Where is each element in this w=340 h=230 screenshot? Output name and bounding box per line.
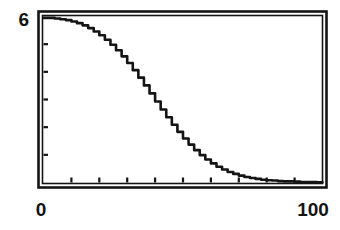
x-axis-min-label: 0 (36, 199, 47, 220)
chart-canvas: 6 0 100 (0, 0, 340, 230)
x-axis-max-label: 100 (297, 199, 329, 220)
figure-background (0, 0, 340, 230)
decay-curve-figure: 6 0 100 (0, 0, 340, 230)
y-axis-max-label: 6 (18, 9, 29, 30)
